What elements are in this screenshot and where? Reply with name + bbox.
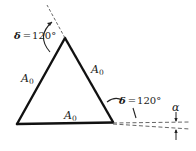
left-side-label: A0 [20,72,34,86]
bottom-extension-line [113,122,190,123]
bottom-side-label: A0 [63,109,77,123]
alpha-arrowhead-top-icon [174,118,177,122]
right-side-label: A0 [90,63,104,77]
right-side [65,38,113,122]
deviated-line [113,124,190,129]
bottom-right-angle-label: δ=120° [118,95,161,106]
alpha-arrowhead-bottom-icon [174,129,177,133]
apex-angle-label: δ=120° [13,30,56,41]
apex-arrowhead-icon [47,22,52,26]
triangle-diagram: A0 A0 A0 δ=120° δ=120° α [0,0,196,151]
alpha-label: α [172,101,180,114]
bottom-right-angle-leader [133,108,136,118]
bottom-side [17,123,113,125]
